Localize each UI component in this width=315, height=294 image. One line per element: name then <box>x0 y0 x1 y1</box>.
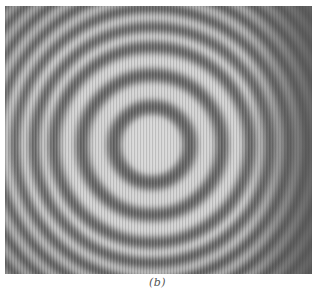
figure: (b) <box>0 0 315 294</box>
interference-fringe-photo <box>5 6 312 274</box>
figure-label: (b) <box>0 276 315 289</box>
